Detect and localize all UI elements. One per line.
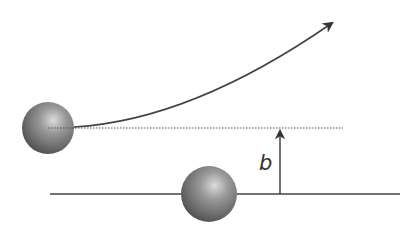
impact-parameter-label: b — [259, 151, 272, 175]
target-sphere — [181, 166, 237, 222]
deflected-trajectory-arrow — [74, 23, 332, 127]
scattering-diagram: b — [0, 0, 418, 233]
